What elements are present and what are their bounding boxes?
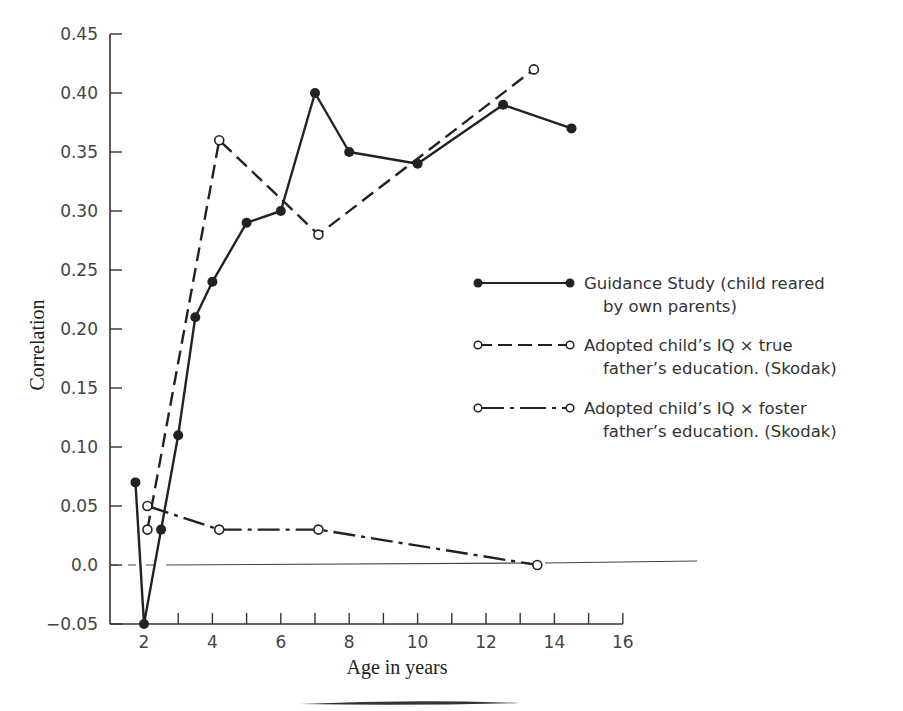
legend: Guidance Study (child rearedby own paren… xyxy=(474,274,837,441)
series-1 xyxy=(130,88,576,629)
zero-line-solid-part xyxy=(166,563,530,565)
data-point-open xyxy=(215,136,224,145)
data-point-open xyxy=(314,230,323,239)
legend-marker-open xyxy=(566,404,574,412)
data-point-filled xyxy=(130,477,140,487)
y-tick-label: 0.30 xyxy=(60,201,98,221)
zero-reference-line xyxy=(110,561,697,565)
legend-marker-filled xyxy=(566,279,575,288)
series-line xyxy=(135,93,571,624)
legend-marker-open xyxy=(474,341,482,349)
data-point-open xyxy=(529,65,538,74)
y-tick-label: −0.05 xyxy=(46,614,98,634)
legend-item-2: Adopted child’s IQ × truefather’s educat… xyxy=(474,336,837,378)
legend-label: father’s education. (Skodak) xyxy=(603,422,837,441)
y-tick-label: 0.25 xyxy=(60,260,98,280)
y-tick-label: 0.15 xyxy=(60,378,98,398)
legend-item-3: Adopted child’s IQ × fosterfather’s educ… xyxy=(474,399,837,441)
y-axis-title: Correlation xyxy=(26,299,48,390)
x-tick-label: 8 xyxy=(344,632,355,652)
data-point-filled xyxy=(567,123,577,133)
x-axis-title: Age in years xyxy=(346,656,447,679)
y-tick-label: 0.05 xyxy=(60,496,98,516)
data-point-open xyxy=(533,561,542,570)
legend-marker-open xyxy=(474,404,482,412)
legend-item-1: Guidance Study (child rearedby own paren… xyxy=(474,274,825,316)
data-point-filled xyxy=(173,430,183,440)
data-point-open xyxy=(143,502,152,511)
x-tick-label: 12 xyxy=(475,632,497,652)
data-point-filled xyxy=(242,218,252,228)
x-tick-label: 6 xyxy=(275,632,286,652)
y-tick-label: 0.20 xyxy=(60,319,98,339)
data-point-open xyxy=(215,525,224,534)
legend-marker-open xyxy=(566,341,574,349)
data-point-open xyxy=(314,525,323,534)
data-point-filled xyxy=(344,147,354,157)
data-point-filled xyxy=(156,525,166,535)
x-tick-label: 4 xyxy=(207,632,218,652)
legend-label: father’s education. (Skodak) xyxy=(603,359,837,378)
x-tick-label: 14 xyxy=(544,632,566,652)
legend-label: Adopted child’s IQ × true xyxy=(584,336,793,355)
zero-line-solid-part xyxy=(545,561,697,563)
y-tick-label: 0.35 xyxy=(60,142,98,162)
series-3 xyxy=(143,502,542,570)
legend-label: Guidance Study (child reared xyxy=(584,274,825,293)
data-point-filled xyxy=(276,206,286,216)
x-tick-label: 2 xyxy=(139,632,150,652)
y-tick-label: 0.45 xyxy=(60,24,98,44)
y-tick-label: 0.10 xyxy=(60,437,98,457)
y-tick-label: 0.0 xyxy=(71,555,98,575)
data-point-filled xyxy=(207,277,217,287)
data-point-filled xyxy=(310,88,320,98)
y-tick-label: 0.40 xyxy=(60,83,98,103)
data-point-filled xyxy=(139,619,149,629)
legend-marker-filled xyxy=(474,279,483,288)
legend-label: Adopted child’s IQ × foster xyxy=(584,399,807,418)
series-layer xyxy=(130,65,576,629)
correlation-chart: −0.050.00.050.100.150.200.250.300.350.40… xyxy=(0,0,903,711)
x-tick-label: 16 xyxy=(612,632,634,652)
data-point-filled xyxy=(190,312,200,322)
legend-label: by own parents) xyxy=(603,297,737,316)
decorative-rule xyxy=(300,701,520,705)
series-line xyxy=(147,506,537,565)
x-tick-label: 10 xyxy=(407,632,429,652)
data-point-open xyxy=(143,525,152,534)
data-point-filled xyxy=(498,100,508,110)
